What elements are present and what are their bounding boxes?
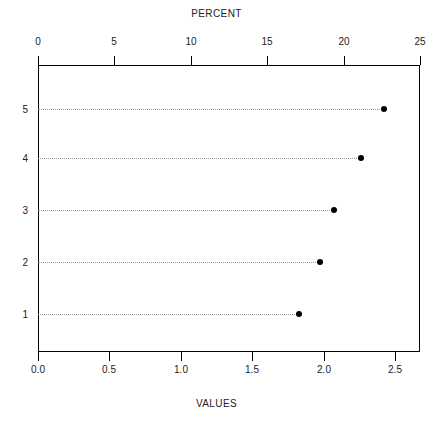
data-point: [358, 155, 364, 161]
data-point: [331, 207, 337, 213]
chart-canvas: PERCENT 05101520250.00.51.01.52.02.55432…: [0, 0, 433, 423]
data-point: [317, 259, 323, 265]
data-points: [0, 0, 433, 423]
x-axis-title: VALUES: [0, 398, 433, 409]
data-point: [381, 106, 387, 112]
data-point: [296, 311, 302, 317]
